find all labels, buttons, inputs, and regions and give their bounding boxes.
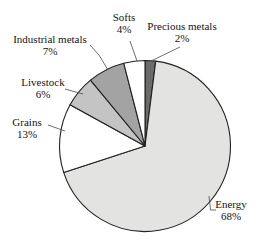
label-grains: Grains 13% [12,116,41,140]
label-energy: Energy 68% [215,198,247,222]
leader-line-precious-metals [151,47,180,61]
label-precious-metals: Precious metals 2% [147,20,216,44]
label-softs: Softs 4% [113,11,136,35]
leader-line-industrial-metals [90,45,108,70]
pie-slices [59,60,230,231]
label-industrial-metals: Industrial metals 7% [13,33,87,57]
label-softs-pct: 4% [113,23,136,35]
label-precious-metals-name: Precious metals [147,20,216,32]
label-grains-pct: 13% [12,128,41,140]
label-livestock-pct: 6% [21,88,64,100]
label-energy-pct: 68% [215,210,247,222]
label-grains-name: Grains [12,116,41,128]
label-livestock: Livestock 6% [21,76,64,100]
leader-line-softs [130,41,137,61]
pie-chart-figure: Softs 4% Precious metals 2% Industrial m… [0,0,263,241]
label-industrial-metals-name: Industrial metals [13,33,87,45]
label-industrial-metals-pct: 7% [13,45,87,57]
label-precious-metals-pct: 2% [147,32,216,44]
label-livestock-name: Livestock [21,76,64,88]
label-energy-name: Energy [215,198,247,210]
label-softs-name: Softs [113,11,136,23]
